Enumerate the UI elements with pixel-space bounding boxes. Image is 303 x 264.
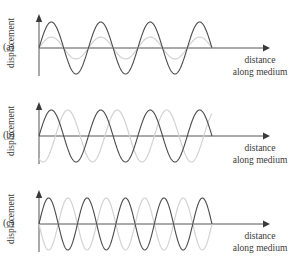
panel-c-x-axis-label-line1: distance — [218, 231, 302, 243]
panel-a-x-axis-label-line2: along medium — [218, 67, 302, 79]
panel-a: displacement (a) distance along medium — [0, 0, 303, 88]
x-axis-arrow-icon — [263, 133, 270, 140]
y-axis-arrow-icon — [36, 190, 42, 198]
panel-b-x-axis-label-line2: along medium — [218, 155, 302, 167]
wave-superposition-figure: displacement (a) distance along medium d… — [0, 0, 303, 264]
y-axis-arrow-icon — [36, 102, 42, 110]
panel-b-label: (b) — [3, 130, 15, 140]
panel-c-label: (c) — [3, 218, 14, 228]
panel-c: displacement (c) distance along medium — [0, 176, 303, 264]
panel-a-x-axis-label: distance along medium — [218, 55, 302, 78]
x-axis-arrow-icon — [263, 221, 270, 228]
panel-a-x-axis-label-line1: distance — [218, 55, 302, 67]
panel-b-x-axis-label-line1: distance — [218, 143, 302, 155]
y-axis-arrow-icon — [36, 14, 42, 22]
panel-b-x-axis-label: distance along medium — [218, 143, 302, 166]
panel-a-label: (a) — [3, 42, 14, 52]
panel-c-x-axis-label-line2: along medium — [218, 243, 302, 255]
panel-b: displacement (b) distance along medium — [0, 88, 303, 176]
x-axis-arrow-icon — [263, 45, 270, 52]
panel-c-x-axis-label: distance along medium — [218, 231, 302, 254]
